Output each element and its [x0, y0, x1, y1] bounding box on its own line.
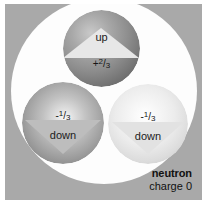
quark-down-left-charge: -1/3	[22, 108, 104, 123]
diagram-plate: up +2/3 -1/3 down -1/3 down neutron char…	[5, 4, 202, 200]
quark-up-charge: +2/3	[63, 56, 140, 71]
quark-down-right-charge-denominator: 3	[151, 114, 155, 123]
particle-charge: charge 0	[149, 180, 192, 193]
quark-down-left-charge-denominator: 3	[66, 113, 70, 122]
quark-down-right: -1/3 down	[108, 84, 188, 164]
quark-down-left: -1/3 down	[22, 82, 104, 164]
quark-up-charge-denominator: 3	[106, 61, 110, 70]
quark-up: up +2/3	[63, 10, 140, 87]
quark-down-right-charge: -1/3	[108, 109, 188, 124]
quark-up-label: up	[63, 31, 140, 43]
caption: neutron charge 0	[149, 167, 192, 193]
particle-name: neutron	[149, 167, 192, 180]
quark-down-left-label: down	[22, 129, 104, 141]
neutron-quark-diagram: up +2/3 -1/3 down -1/3 down neutron char…	[0, 0, 207, 206]
quark-down-right-label: down	[108, 130, 188, 142]
